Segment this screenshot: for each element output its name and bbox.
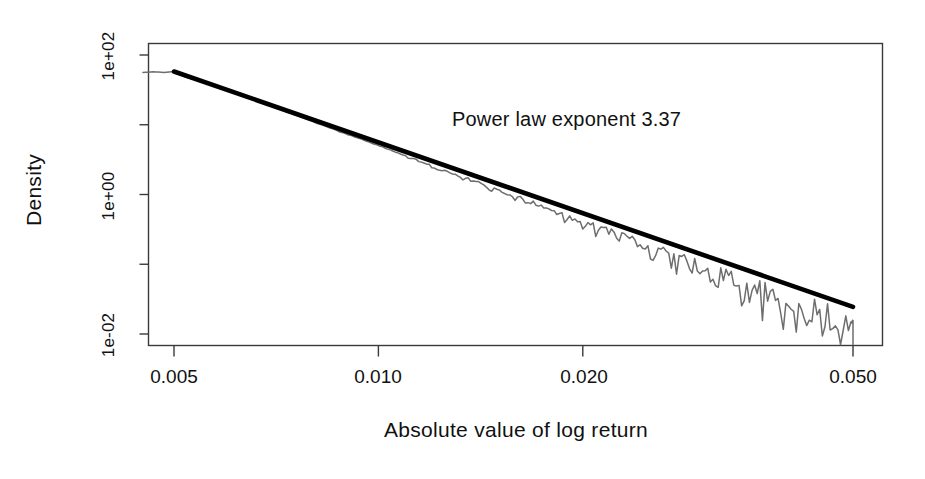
plot-canvas xyxy=(0,0,925,479)
plot-box xyxy=(149,44,883,346)
data-layer xyxy=(143,72,853,345)
y-tick-marks xyxy=(140,55,149,334)
power-law-fit-line xyxy=(174,72,853,307)
density-series-line xyxy=(143,72,853,345)
axis-layer xyxy=(140,44,883,357)
chart-figure: Density Absolute value of log return 1e+… xyxy=(0,0,925,479)
x-tick-marks xyxy=(174,346,853,357)
